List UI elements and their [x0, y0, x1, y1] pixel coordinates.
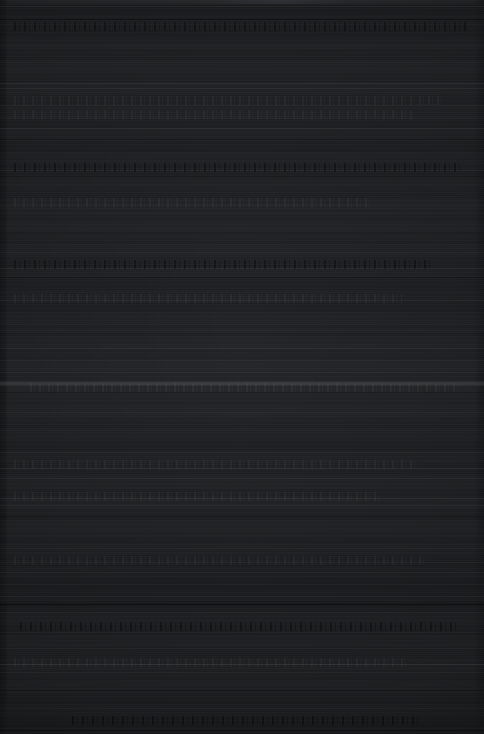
divider-rule	[0, 360, 484, 361]
divider-rule	[0, 452, 484, 453]
divider-rule	[0, 535, 484, 536]
divider-rule	[0, 584, 484, 585]
divider-rule	[0, 372, 484, 373]
divider-rule	[0, 176, 484, 177]
divider-rule	[0, 430, 484, 431]
divider-rule	[0, 105, 484, 106]
divider-rule	[0, 6, 484, 7]
text-row	[14, 460, 418, 469]
divider-rule	[0, 412, 484, 413]
text-row	[14, 260, 434, 269]
text-row	[72, 716, 420, 725]
divider-rule	[0, 312, 484, 313]
divider-rule	[0, 128, 484, 129]
highlight-row	[0, 381, 484, 386]
text-row	[20, 622, 460, 631]
divider-rule	[0, 572, 484, 573]
text-row	[14, 110, 412, 119]
divider-rule	[0, 139, 484, 140]
divider-rule	[0, 708, 484, 709]
text-row	[14, 96, 444, 105]
text-row	[14, 492, 380, 501]
screenshot-canvas	[0, 0, 484, 734]
divider-rule	[0, 392, 484, 393]
divider-rule	[0, 83, 484, 84]
divider-rule	[0, 19, 484, 20]
divider-rule	[0, 330, 484, 331]
divider-rule	[0, 612, 484, 613]
divider-rule	[0, 604, 484, 605]
text-row	[14, 658, 410, 667]
divider-rule	[0, 516, 484, 517]
divider-rule	[0, 632, 484, 633]
left-gutter	[0, 0, 8, 734]
divider-rule	[0, 505, 484, 506]
divider-rule	[0, 648, 484, 649]
divider-rule	[0, 88, 484, 89]
text-row	[14, 198, 374, 207]
text-row	[14, 163, 460, 172]
divider-rule	[0, 487, 484, 488]
divider-rule	[0, 596, 484, 597]
divider-rule	[0, 672, 484, 673]
divider-rule	[0, 690, 484, 691]
text-row	[14, 294, 402, 303]
divider-rule	[0, 62, 484, 63]
divider-rule	[0, 277, 484, 278]
divider-rule	[0, 348, 484, 349]
divider-rule	[0, 252, 484, 253]
divider-rule	[0, 478, 484, 479]
text-row	[14, 22, 466, 31]
divider-rule	[0, 45, 484, 46]
titlebar-sliver[interactable]	[0, 0, 484, 4]
divider-rule	[0, 153, 484, 154]
divider-rule	[0, 548, 484, 549]
right-edge-shadow	[474, 0, 484, 734]
text-row	[14, 556, 426, 565]
divider-rule	[0, 213, 484, 214]
divider-rule	[0, 232, 484, 233]
divider-rule	[0, 730, 484, 731]
